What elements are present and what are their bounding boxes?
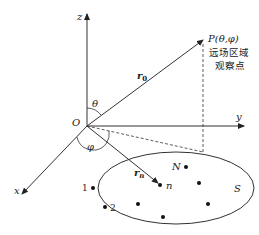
element-point xyxy=(206,202,210,206)
element-label-n: n xyxy=(166,180,172,191)
projection-ground xyxy=(87,126,203,152)
z-axis-label: z xyxy=(76,11,83,22)
element-point-n xyxy=(158,183,162,187)
element-label-1: 1 xyxy=(82,183,88,193)
element-point-1 xyxy=(91,186,95,190)
x-axis xyxy=(22,126,87,194)
theta-label: θ xyxy=(92,98,98,109)
y-axis-label: y xyxy=(235,111,242,122)
point-p-label: P(θ,φ) xyxy=(207,33,239,44)
point-p-caption-line1: 远场区域 xyxy=(209,47,249,58)
origin-label: O xyxy=(72,117,80,128)
r0-vector xyxy=(87,40,203,126)
element-label-2: 2 xyxy=(110,203,116,213)
element-point xyxy=(197,181,201,185)
element-point xyxy=(161,215,165,219)
rn-label: rn xyxy=(134,167,144,180)
surface-s-label: S xyxy=(234,183,241,194)
theta-arc xyxy=(87,108,101,115)
element-point-N xyxy=(184,165,188,169)
x-axis-label: x xyxy=(14,185,20,196)
phi-label: φ xyxy=(87,141,94,152)
r0-label: r0 xyxy=(137,70,147,83)
element-point xyxy=(136,202,140,206)
element-point-2 xyxy=(103,205,107,209)
element-label-N: N xyxy=(171,161,182,172)
antenna-array-coordinate-diagram: z y x O r0 θ φ P(θ,φ) 远场区域 观察点 S rn 1 2 … xyxy=(0,0,259,235)
point-p-caption-line2: 观察点 xyxy=(215,60,245,71)
